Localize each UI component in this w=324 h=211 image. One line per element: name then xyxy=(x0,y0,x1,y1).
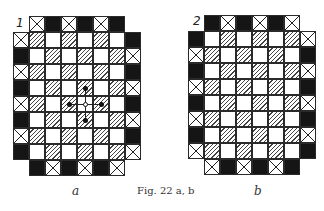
white-square xyxy=(61,80,77,96)
cross-icon xyxy=(14,97,28,111)
white-square xyxy=(61,144,77,160)
hatched-square xyxy=(29,128,45,144)
black-square xyxy=(93,160,109,176)
hatched-square xyxy=(204,79,220,95)
crossed-square xyxy=(125,144,141,160)
hatched-square xyxy=(61,32,77,48)
white-square xyxy=(268,127,284,143)
white-square xyxy=(204,127,220,143)
black-square xyxy=(188,95,204,111)
piece-dot-icon xyxy=(83,86,88,91)
cross-icon xyxy=(253,16,267,30)
black-square xyxy=(13,112,29,128)
cross-icon xyxy=(221,16,235,30)
white-square xyxy=(93,80,109,96)
crossed-square xyxy=(13,96,29,112)
white-square xyxy=(204,95,220,111)
black-square xyxy=(204,15,220,31)
hatched-square xyxy=(93,128,109,144)
hatched-square xyxy=(45,48,61,64)
piece-dot-icon xyxy=(67,102,72,107)
cross-icon xyxy=(205,160,219,174)
hatched-square xyxy=(268,47,284,63)
hatched-square xyxy=(268,143,284,159)
crossed-square xyxy=(300,127,316,143)
crossed-square xyxy=(204,159,220,175)
black-square xyxy=(13,48,29,64)
white-square xyxy=(77,128,93,144)
hatched-square xyxy=(204,47,220,63)
board-b-number: 2 xyxy=(193,14,201,28)
white-square xyxy=(109,96,125,112)
black-square xyxy=(109,16,125,32)
cross-icon xyxy=(14,129,28,143)
hatched-square xyxy=(236,143,252,159)
white-square xyxy=(204,31,220,47)
hatched-square xyxy=(220,31,236,47)
cross-icon xyxy=(269,160,283,174)
white-square xyxy=(109,64,125,80)
cross-icon xyxy=(189,112,203,126)
cross-icon xyxy=(30,17,44,31)
hatched-square xyxy=(77,144,93,160)
black-square xyxy=(300,79,316,95)
hatched-square xyxy=(29,32,45,48)
hatched-square xyxy=(236,79,252,95)
black-square xyxy=(236,15,252,31)
crossed-square xyxy=(13,64,29,80)
cross-icon xyxy=(237,160,251,174)
hatched-square xyxy=(109,112,125,128)
black-square xyxy=(29,160,45,176)
crossed-square xyxy=(268,159,284,175)
white-square xyxy=(236,31,252,47)
white-square xyxy=(93,112,109,128)
black-square xyxy=(188,63,204,79)
cross-icon xyxy=(110,161,124,175)
hatched-square xyxy=(45,112,61,128)
cross-icon xyxy=(301,32,315,46)
hatched-square xyxy=(93,64,109,80)
white-square xyxy=(204,63,220,79)
crossed-square xyxy=(300,95,316,111)
hatched-square xyxy=(220,95,236,111)
crossed-square xyxy=(188,111,204,127)
cross-icon xyxy=(126,81,140,95)
cross-icon xyxy=(189,48,203,62)
crossed-square xyxy=(45,160,61,176)
hatched-square xyxy=(204,111,220,127)
hatched-square xyxy=(29,64,45,80)
crossed-square xyxy=(188,47,204,63)
white-square xyxy=(252,47,268,63)
white-square xyxy=(29,112,45,128)
cross-icon xyxy=(14,65,28,79)
white-square xyxy=(236,95,252,111)
cross-icon xyxy=(126,113,140,127)
black-square xyxy=(188,31,204,47)
white-square xyxy=(29,80,45,96)
white-square xyxy=(77,64,93,80)
hatched-square xyxy=(236,47,252,63)
white-square xyxy=(268,95,284,111)
cross-icon xyxy=(78,161,92,175)
crossed-square xyxy=(125,80,141,96)
black-square xyxy=(268,15,284,31)
crossed-square xyxy=(125,112,141,128)
crossed-square xyxy=(300,31,316,47)
black-square xyxy=(125,64,141,80)
white-square xyxy=(236,63,252,79)
crossed-square xyxy=(300,63,316,79)
white-square xyxy=(45,64,61,80)
black-square xyxy=(284,159,300,175)
hatched-square xyxy=(252,127,268,143)
crossed-square xyxy=(61,16,77,32)
hatched-square xyxy=(61,128,77,144)
crossed-square xyxy=(29,16,45,32)
white-square xyxy=(236,127,252,143)
hatched-square xyxy=(268,111,284,127)
hatched-square xyxy=(61,64,77,80)
hatched-square xyxy=(252,31,268,47)
white-square xyxy=(284,111,300,127)
board-a-sublabel: a xyxy=(72,184,79,198)
black-square xyxy=(77,16,93,32)
hatched-square xyxy=(284,95,300,111)
